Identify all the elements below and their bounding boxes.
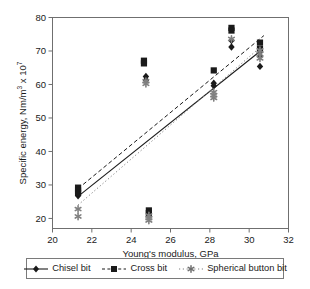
y-tick-label: 20 xyxy=(35,213,46,224)
y-tick-label: 70 xyxy=(35,45,46,56)
data-point-square xyxy=(228,27,234,33)
chart-legend: Chisel bit Cross bit Spherical button bi… xyxy=(26,258,284,279)
y-tick-label: 80 xyxy=(35,12,46,23)
y-tick-label: 40 xyxy=(35,146,46,157)
scatter-plot: 2022242628303220304050607080Young's modu… xyxy=(0,0,310,289)
x-tick-label: 30 xyxy=(244,234,255,245)
svg-text:Specific energy, Nm/m3 x 107: Specific energy, Nm/m3 x 107 xyxy=(16,61,27,184)
chart-figure: 2022242628303220304050607080Young's modu… xyxy=(0,0,310,289)
data-point-square xyxy=(75,190,81,196)
legend-sample-cross-bit xyxy=(101,263,127,275)
data-point-square xyxy=(257,40,263,46)
data-point-square xyxy=(211,67,217,73)
y-axis-title: Specific energy, Nm/m3 x 107 xyxy=(16,61,27,184)
x-tick-label: 32 xyxy=(283,234,294,245)
x-tick-label: 26 xyxy=(165,234,176,245)
x-tick-label: 20 xyxy=(47,234,58,245)
legend-label-spherical-button-bit: Spherical button bit xyxy=(207,264,287,273)
y-tick-label: 60 xyxy=(35,79,46,90)
legend-label-cross-bit: Cross bit xyxy=(130,264,167,273)
legend-item-chisel-bit[interactable]: Chisel bit xyxy=(23,263,90,275)
x-tick-label: 22 xyxy=(87,234,98,245)
y-axis: 20304050607080 xyxy=(35,12,52,224)
x-axis: 20222426283032 xyxy=(47,229,294,245)
x-axis-title: Young's modulus, GPa xyxy=(123,248,220,259)
data-point-square xyxy=(141,60,147,66)
legend-label-chisel-bit: Chisel bit xyxy=(52,264,90,273)
y-tick-label: 50 xyxy=(35,112,46,123)
x-tick-label: 24 xyxy=(126,234,137,245)
legend-sample-chisel-bit xyxy=(23,263,49,275)
legend-item-cross-bit[interactable]: Cross bit xyxy=(101,263,167,275)
legend-item-spherical-button-bit[interactable]: Spherical button bit xyxy=(178,263,287,275)
legend-sample-spherical-button-bit xyxy=(178,263,204,275)
x-tick-label: 28 xyxy=(205,234,216,245)
y-tick-label: 30 xyxy=(35,179,46,190)
